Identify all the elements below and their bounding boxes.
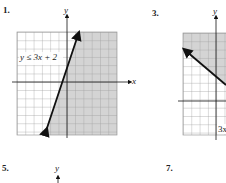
inequality-label: y ≤ 3x + 2 <box>20 52 57 62</box>
graph-3-label: 3x <box>218 124 226 134</box>
graph-3 <box>178 17 226 140</box>
x-axis-label-1: x <box>132 76 136 86</box>
y-axis-label-1: y <box>64 5 68 15</box>
y-axis-label-5: y <box>55 163 59 173</box>
graph-1 <box>12 16 130 138</box>
graphs-canvas <box>0 0 226 183</box>
y-axis-label-3: y <box>213 6 217 16</box>
